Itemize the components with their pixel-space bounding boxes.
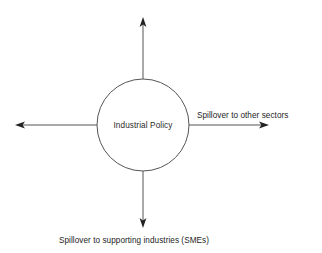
arrow-down — [140, 171, 147, 228]
arrow-left — [15, 122, 97, 129]
arrow-right-label: Spillover to other sectors — [197, 111, 288, 120]
diagram-canvas: Industrial Policy Spillover to other sec… — [0, 0, 322, 253]
spillover-diagram: Industrial Policy Spillover to other sec… — [0, 0, 322, 253]
arrow-down-label: Spillover to supporting industries (SMEs… — [59, 236, 209, 245]
arrow-up — [140, 17, 147, 79]
arrow-right — [189, 122, 269, 129]
center-node-label: Industrial Policy — [113, 121, 173, 130]
